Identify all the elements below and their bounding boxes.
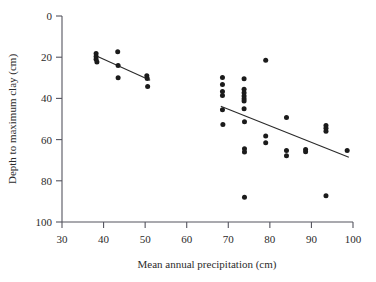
x-tick-label: 100 [345, 233, 362, 245]
data-point [94, 59, 99, 64]
data-point [220, 107, 225, 112]
data-point [263, 140, 268, 145]
x-axis-title: Mean annual precipitation (cm) [138, 258, 277, 271]
data-point [323, 129, 328, 134]
y-tick-label: 20 [41, 51, 53, 63]
data-point [220, 82, 225, 87]
y-tick-label: 60 [41, 134, 53, 146]
data-point [284, 148, 289, 153]
x-axis-ticks: 30405060708090100 [57, 222, 362, 245]
x-tick-label: 40 [98, 233, 110, 245]
y-axis-ticks: 020406080100 [36, 10, 63, 228]
data-point [345, 148, 350, 153]
y-tick-label: 100 [36, 216, 53, 228]
data-point [220, 122, 225, 127]
axes-group [62, 16, 353, 222]
data-point [284, 115, 289, 120]
data-point [242, 119, 247, 124]
data-point [145, 76, 150, 81]
data-point [284, 153, 289, 158]
data-point [220, 75, 225, 80]
data-point [263, 134, 268, 139]
x-tick-label: 70 [223, 233, 235, 245]
x-tick-label: 80 [264, 233, 276, 245]
data-point [303, 149, 308, 154]
x-tick-label: 50 [140, 233, 152, 245]
data-point [220, 93, 225, 98]
y-tick-label: 0 [47, 10, 53, 22]
regression-lines [97, 56, 349, 157]
y-tick-label: 40 [41, 92, 53, 104]
x-tick-label: 30 [57, 233, 69, 245]
data-point [242, 195, 247, 200]
y-axis-title: Depth to maximum clay (cm) [6, 54, 19, 184]
data-point [242, 76, 247, 81]
y-tick-label: 80 [41, 175, 53, 187]
low-group-regression [97, 56, 151, 80]
data-point [145, 84, 150, 89]
data-point [116, 63, 121, 68]
x-tick-label: 90 [306, 233, 318, 245]
data-point [242, 149, 247, 154]
data-point [242, 106, 247, 111]
data-point [263, 58, 268, 63]
chart-figure: 020406080100 30405060708090100 Mean annu… [0, 0, 376, 282]
data-point [115, 49, 120, 54]
scatter-plot-canvas: 020406080100 30405060708090100 Mean annu… [0, 0, 376, 282]
data-point [242, 99, 247, 104]
data-point [323, 193, 328, 198]
data-point [116, 75, 121, 80]
x-tick-label: 60 [181, 233, 193, 245]
